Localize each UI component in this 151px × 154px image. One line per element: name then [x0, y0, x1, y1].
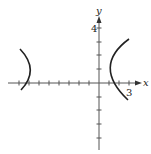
x-tick-label: 3: [126, 87, 132, 98]
y-tick-label: 4: [91, 23, 97, 34]
hyperbola-graph: y x 4 3: [0, 0, 151, 154]
x-axis-label: x: [143, 77, 149, 88]
y-axis-label: y: [95, 5, 102, 16]
